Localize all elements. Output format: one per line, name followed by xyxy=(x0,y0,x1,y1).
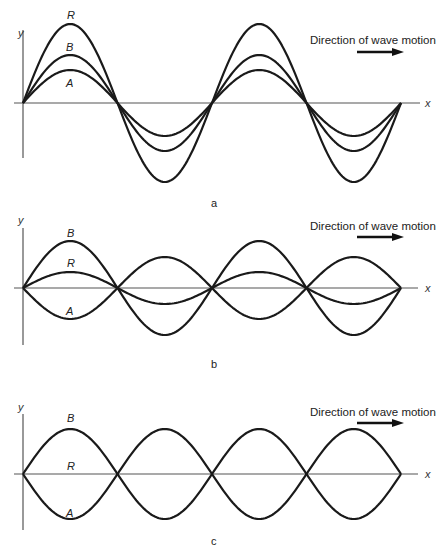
curve-label-b: B xyxy=(67,412,74,424)
arrow-right-icon xyxy=(357,48,404,56)
curve-label-a: A xyxy=(65,77,73,89)
panel-c: y x B R A Direction of wave motion c xyxy=(14,401,436,547)
arrow-right-icon xyxy=(357,233,404,241)
curve-label-a: A xyxy=(65,507,73,519)
curve-label-b: B xyxy=(67,227,74,239)
curve-label-r: R xyxy=(67,257,75,269)
panel-a: y x R B A Direction of wave motion a xyxy=(14,9,436,209)
curve-label-a: A xyxy=(65,305,73,317)
panel-label-b: b xyxy=(211,358,217,370)
panel-b: y x B R A Direction of wave motion b xyxy=(14,214,436,370)
curve-label-r: R xyxy=(67,460,75,472)
x-axis-label: x xyxy=(424,468,431,480)
x-axis-label: x xyxy=(424,282,431,294)
direction-of-wave-motion-label: Direction of wave motion xyxy=(310,406,436,418)
wave-interference-figure: y x R B A Direction of wave motion a y x… xyxy=(0,0,443,557)
curve-label-r: R xyxy=(67,9,75,21)
direction-of-wave-motion-label: Direction of wave motion xyxy=(310,34,436,46)
arrow-right-icon xyxy=(357,419,404,427)
y-axis-label: y xyxy=(17,214,25,226)
panel-label-a: a xyxy=(211,197,218,209)
curve-label-b: B xyxy=(66,41,73,53)
y-axis-label: y xyxy=(17,27,25,39)
direction-of-wave-motion-label: Direction of wave motion xyxy=(310,220,436,232)
panel-label-c: c xyxy=(211,535,217,547)
y-axis-label: y xyxy=(17,401,25,413)
x-axis-label: x xyxy=(424,97,431,109)
